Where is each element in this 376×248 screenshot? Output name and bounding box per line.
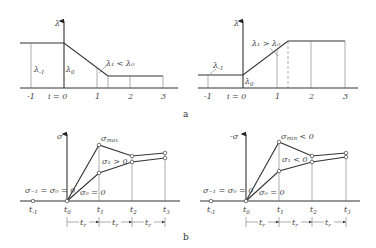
- data-point: [310, 154, 314, 158]
- data-point: [244, 199, 248, 203]
- sigma1-lt-label: σ₁ < 0: [282, 155, 308, 164]
- sigma-min-label: σmin < 0: [281, 132, 314, 141]
- tick-t0: t0: [243, 205, 250, 215]
- interval-label: tr: [292, 218, 298, 228]
- tick-t2: t2: [310, 205, 317, 215]
- data-point: [163, 156, 167, 160]
- tick-t3: t3: [344, 205, 351, 215]
- data-point: [97, 171, 101, 175]
- tick-t-minus1: t-1: [29, 205, 38, 215]
- sigma0-label: σ₀ = 0: [80, 188, 106, 197]
- data-point: [209, 199, 213, 203]
- interval-label: tr: [80, 218, 86, 228]
- interval-label: tr: [145, 218, 151, 228]
- tick-label: 1: [275, 92, 280, 101]
- sigma-initial-label: σ₋₁ = σ₀ = 0: [25, 186, 75, 195]
- tick-t2: t2: [130, 205, 137, 215]
- interval-label: tr: [259, 218, 265, 228]
- chart-a-right: λ λ-1 λ0 λ₁ > λ₀ -1 i = 0 1 2 3: [198, 19, 358, 101]
- y-axis-label: σ: [57, 132, 63, 141]
- data-point: [65, 199, 69, 203]
- tick-t0: t0: [64, 205, 71, 215]
- interval-label: tr: [112, 218, 118, 228]
- part-a-label: a: [183, 109, 189, 119]
- tick-label: 1: [95, 92, 100, 101]
- chart-b-left: σ σmax σ₁ > 0 σ₋₁ = σ₀ = 0 σ₀ = 0 t-1 t0…: [20, 132, 180, 228]
- data-point: [344, 155, 348, 159]
- sigma0-label: σ₀ = 0: [259, 188, 285, 197]
- sigma1-gt-label: σ₁ > 0: [102, 157, 128, 166]
- data-point: [130, 160, 134, 164]
- data-point: [97, 143, 101, 147]
- tick-t-minus1: t-1: [207, 205, 216, 215]
- tick-label: -1: [27, 92, 35, 101]
- interval-label: tr: [325, 218, 331, 228]
- tick-t1: t1: [277, 205, 284, 215]
- data-point: [344, 151, 348, 155]
- data-point: [277, 169, 281, 173]
- lambda-0-label: λ0: [244, 77, 254, 87]
- y-axis-label: -σ: [230, 132, 239, 141]
- figure-canvas: λ λ-1 λ0 λ₁ < λ₀ -1 i = 0 1 2 3 λ λ-1 λ0…: [0, 0, 376, 248]
- lambda-minus1-label: λ-1: [33, 65, 44, 75]
- sigma-max-label: σmax: [101, 134, 119, 143]
- lambda-minus1-label: λ-1: [212, 61, 223, 71]
- y-axis-label: λ: [54, 19, 60, 28]
- tick-label: 2: [308, 92, 314, 101]
- data-point: [310, 160, 314, 164]
- tick-label: 3: [161, 92, 166, 101]
- tick-label: 2: [127, 92, 133, 101]
- lambda1-gt-label: λ₁ > λ₀: [251, 39, 281, 48]
- sigma-initial-label: σ₋₁ = σ₀ = 0: [203, 186, 253, 195]
- part-b-label: b: [183, 232, 189, 242]
- data-point: [163, 151, 167, 155]
- tick-label: 3: [343, 92, 348, 101]
- tick-label: i = 0: [227, 92, 246, 101]
- tick-label: i = 0: [48, 92, 67, 101]
- lambda1-lt-label: λ₁ < λ₀: [105, 59, 135, 68]
- chart-a-left: λ λ-1 λ0 λ₁ < λ₀ -1 i = 0 1 2 3: [20, 19, 178, 101]
- lambda-0-label: λ0: [65, 65, 75, 75]
- data-point: [31, 199, 35, 203]
- data-point: [130, 154, 134, 158]
- chart-b-right: -σ σmin < 0 σ₁ < 0 σ₋₁ = σ₀ = 0 σ₀ = 0 t…: [200, 132, 360, 228]
- y-axis-label: λ: [233, 19, 239, 28]
- tick-label: -1: [204, 92, 212, 101]
- tick-t1: t1: [97, 205, 104, 215]
- tick-t3: t3: [163, 205, 170, 215]
